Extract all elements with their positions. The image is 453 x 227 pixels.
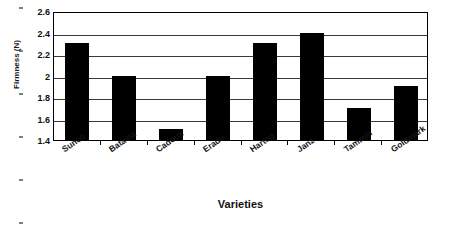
y-axis-tick-label: 1.8 (24, 94, 50, 103)
y-axis-tick-mark (19, 94, 23, 95)
y-axis-title: Firmness (N) (12, 20, 21, 110)
y-axis-tick-mark (19, 223, 23, 224)
y-axis-tick-mark (19, 8, 23, 9)
x-axis-tick-labels: SuncoBataviaCadouxEraduHartogJanzTamminG… (53, 146, 428, 190)
x-axis-tick-mark (100, 141, 101, 145)
x-axis-title: Varieties (53, 198, 428, 210)
bar (300, 33, 324, 141)
bar (206, 76, 230, 141)
y-axis-tick-mark (19, 180, 23, 181)
y-axis-tick-labels: 1.41.61.822.22.42.6 (24, 12, 50, 141)
bar-chart: Firmness (N) 1.41.61.822.22.42.6 SuncoBa… (0, 0, 453, 227)
x-axis-tick-mark (147, 141, 148, 145)
x-axis-tick-mark (241, 141, 242, 145)
x-axis-tick-mark (194, 141, 195, 145)
y-axis-tick-label: 2.2 (24, 51, 50, 60)
x-axis-tick-mark (381, 141, 382, 145)
plot-area (53, 12, 428, 141)
y-axis-tick-label: 2 (24, 72, 50, 81)
bar (253, 43, 277, 140)
x-axis-tick-mark (287, 141, 288, 145)
bars-group (54, 13, 427, 140)
y-axis-tick-mark (19, 51, 23, 52)
y-axis-tick-label: 2.6 (24, 8, 50, 17)
bar (65, 43, 89, 140)
y-axis-tick-mark (19, 137, 23, 138)
y-axis-tick-label: 1.4 (24, 137, 50, 146)
y-axis-tick-label: 2.4 (24, 29, 50, 38)
y-axis-tick-label: 1.6 (24, 115, 50, 124)
x-axis-tick-mark (334, 141, 335, 145)
